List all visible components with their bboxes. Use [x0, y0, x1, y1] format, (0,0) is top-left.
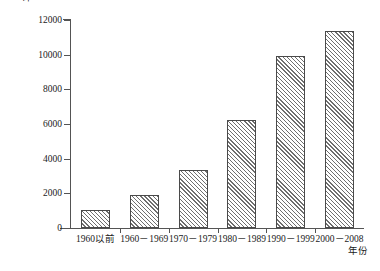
bar	[130, 195, 159, 228]
x-axis-tick	[315, 228, 316, 233]
y-axis-tick-label-text: 8000	[18, 84, 62, 94]
x-axis-tick	[169, 228, 170, 233]
plot-area	[71, 20, 364, 228]
y-axis-tick-label-text: 2000	[18, 188, 62, 198]
y-axis-tick-label: 0	[16, 223, 62, 233]
x-axis-line	[60, 228, 364, 229]
x-axis-tick	[120, 228, 121, 233]
y-axis-tick	[64, 89, 71, 90]
y-axis-title-main: 平均单产/(kg/hm	[23, 0, 33, 2]
y-axis-tick	[64, 55, 71, 56]
y-axis-tick-label: 12000	[16, 15, 62, 25]
bar-chart: 平均单产/(kg/hm2) 02000400060008000100001200…	[0, 0, 380, 271]
x-axis-title: 年份	[348, 246, 368, 257]
y-axis-tick	[64, 20, 71, 21]
bar	[325, 31, 354, 228]
bar	[179, 170, 208, 228]
y-axis-tick-label-text: 12000	[18, 15, 62, 25]
bar	[276, 56, 305, 228]
x-axis-tick	[266, 228, 267, 233]
y-axis-tick-label-text: 6000	[18, 119, 62, 129]
y-axis-tick-label: 10000	[16, 50, 62, 60]
x-axis-tick-label: 2000－2008	[311, 234, 368, 245]
y-axis-tick-label: 2000	[16, 188, 62, 198]
bar	[81, 210, 110, 228]
x-axis-tick	[218, 228, 219, 233]
y-axis-tick-label: 4000	[16, 154, 62, 164]
y-axis-tick-label-text: 0	[18, 223, 62, 233]
y-axis-tick-label-text: 4000	[18, 154, 62, 164]
y-axis-tick	[64, 159, 71, 160]
y-axis-tick	[64, 193, 71, 194]
y-axis-tick-label-text: 10000	[18, 50, 62, 60]
y-axis-tick-label: 6000	[16, 119, 62, 129]
bar	[227, 120, 256, 228]
y-axis-tick	[64, 228, 71, 229]
y-axis-tick	[64, 124, 71, 125]
y-axis-tick-label: 8000	[16, 84, 62, 94]
